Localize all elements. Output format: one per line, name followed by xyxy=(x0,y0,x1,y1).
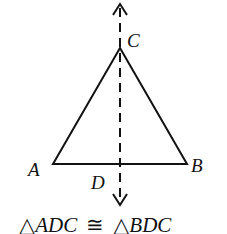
congruent-triangles-diagram: C A B D △ADC≅△BDC xyxy=(0,0,227,234)
caption: △ADC≅△BDC xyxy=(19,213,172,234)
triangle-symbol-1: △ xyxy=(19,213,36,234)
triangle-symbol-2: △ xyxy=(113,213,130,234)
congruent-symbol: ≅ xyxy=(86,213,104,234)
label-c: C xyxy=(127,30,140,51)
triangle-bdc: BDC xyxy=(129,213,172,234)
label-d: D xyxy=(90,172,105,193)
triangle-adc: ADC xyxy=(33,213,78,234)
label-b: B xyxy=(191,155,203,176)
label-a: A xyxy=(26,159,40,180)
